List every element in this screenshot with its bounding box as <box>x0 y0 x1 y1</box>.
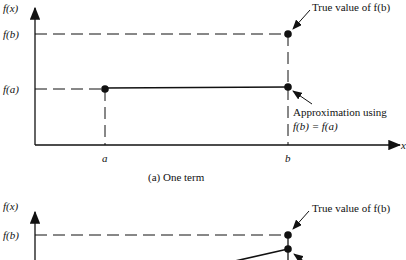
y-axis-label-b: f(x) <box>3 201 18 212</box>
arrow-true <box>293 10 310 29</box>
annotation-approx-line2: f(b) = f(a) <box>293 121 338 132</box>
caption: (a) One term <box>148 172 204 183</box>
x-axis-label: x <box>401 140 406 151</box>
panel-b <box>35 211 309 260</box>
point-true-fb <box>284 30 292 38</box>
annotation-approx-line1: Approximation using <box>293 107 387 118</box>
approx-line <box>105 87 288 88</box>
point-approx-fb <box>284 245 292 253</box>
tick-a: a <box>102 153 108 164</box>
point-approx-fb <box>284 83 292 91</box>
arrow-approx <box>293 91 312 104</box>
tick-b: b <box>285 153 291 164</box>
annotation-true-value-b: True value of f(b) <box>312 203 390 214</box>
arrow-true <box>293 211 309 229</box>
point-a <box>101 85 109 93</box>
panel-a <box>35 8 400 145</box>
approx-line <box>235 249 288 260</box>
tick-fb: f(b) <box>3 29 19 40</box>
arrow-approx <box>294 254 305 260</box>
point-true-fb <box>284 231 292 239</box>
y-axis-label: f(x) <box>3 3 18 14</box>
tick-fa: f(a) <box>3 84 19 95</box>
annotation-true-value: True value of f(b) <box>312 2 390 13</box>
tick-fb-b: f(b) <box>3 230 19 241</box>
